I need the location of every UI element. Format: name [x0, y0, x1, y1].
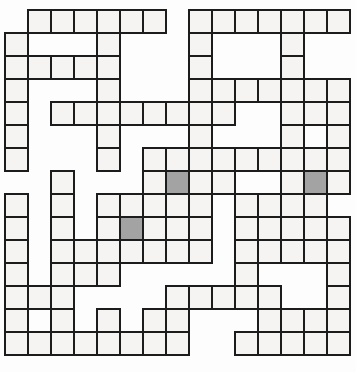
grid-cell[interactable] — [4, 308, 29, 333]
grid-cell[interactable] — [326, 124, 351, 149]
grid-cell[interactable] — [50, 193, 75, 218]
grid-cell[interactable] — [96, 101, 121, 126]
grid-cell[interactable] — [165, 147, 190, 172]
grid-cell[interactable] — [27, 9, 52, 34]
grid-cell[interactable] — [326, 216, 351, 241]
grid-cell[interactable] — [211, 78, 236, 103]
grid-cell[interactable] — [142, 147, 167, 172]
grid-cell[interactable] — [27, 55, 52, 80]
grid-cell[interactable] — [73, 239, 98, 264]
grid-cell[interactable] — [188, 170, 213, 195]
grid-cell[interactable] — [96, 9, 121, 34]
grid-cell[interactable] — [280, 170, 305, 195]
grid-cell[interactable] — [4, 285, 29, 310]
grid-cell[interactable] — [165, 285, 190, 310]
grid-cell[interactable] — [188, 239, 213, 264]
grid-cell[interactable] — [234, 262, 259, 287]
grid-cell[interactable] — [142, 9, 167, 34]
grid-cell[interactable] — [280, 239, 305, 264]
grid-cell[interactable] — [188, 216, 213, 241]
grid-cell[interactable] — [326, 239, 351, 264]
grid-cell[interactable] — [142, 170, 167, 195]
grid-cell[interactable] — [280, 101, 305, 126]
grid-cell[interactable] — [211, 285, 236, 310]
grid-cell[interactable] — [280, 78, 305, 103]
grid-cell[interactable] — [73, 331, 98, 356]
grid-cell[interactable] — [142, 331, 167, 356]
grid-cell[interactable] — [142, 101, 167, 126]
grid-cell[interactable] — [165, 193, 190, 218]
grid-cell[interactable] — [4, 78, 29, 103]
grid-cell[interactable] — [234, 285, 259, 310]
grid-cell[interactable] — [142, 193, 167, 218]
grid-cell[interactable] — [280, 193, 305, 218]
grid-cell[interactable] — [50, 262, 75, 287]
grid-cell[interactable] — [50, 216, 75, 241]
grid-cell[interactable] — [142, 216, 167, 241]
grid-cell[interactable] — [280, 147, 305, 172]
grid-cell[interactable] — [96, 216, 121, 241]
shaded-cell[interactable] — [165, 170, 190, 195]
grid-cell[interactable] — [96, 331, 121, 356]
grid-cell[interactable] — [280, 32, 305, 57]
grid-cell[interactable] — [234, 216, 259, 241]
grid-cell[interactable] — [119, 101, 144, 126]
grid-cell[interactable] — [165, 239, 190, 264]
grid-cell[interactable] — [188, 193, 213, 218]
grid-cell[interactable] — [303, 331, 328, 356]
grid-cell[interactable] — [188, 124, 213, 149]
grid-cell[interactable] — [188, 9, 213, 34]
grid-cell[interactable] — [234, 239, 259, 264]
grid-cell[interactable] — [211, 147, 236, 172]
grid-cell[interactable] — [326, 262, 351, 287]
grid-cell[interactable] — [303, 9, 328, 34]
grid-cell[interactable] — [188, 285, 213, 310]
grid-cell[interactable] — [257, 308, 282, 333]
grid-cell[interactable] — [96, 239, 121, 264]
grid-cell[interactable] — [165, 101, 190, 126]
grid-cell[interactable] — [280, 308, 305, 333]
grid-cell[interactable] — [257, 239, 282, 264]
grid-cell[interactable] — [50, 101, 75, 126]
shaded-cell[interactable] — [119, 216, 144, 241]
grid-cell[interactable] — [73, 262, 98, 287]
grid-cell[interactable] — [4, 101, 29, 126]
grid-cell[interactable] — [234, 147, 259, 172]
grid-cell[interactable] — [188, 101, 213, 126]
grid-cell[interactable] — [4, 124, 29, 149]
grid-cell[interactable] — [4, 193, 29, 218]
grid-cell[interactable] — [27, 285, 52, 310]
grid-cell[interactable] — [96, 55, 121, 80]
grid-cell[interactable] — [326, 170, 351, 195]
grid-cell[interactable] — [50, 308, 75, 333]
grid-cell[interactable] — [257, 9, 282, 34]
grid-cell[interactable] — [4, 239, 29, 264]
grid-cell[interactable] — [50, 55, 75, 80]
grid-cell[interactable] — [326, 78, 351, 103]
grid-cell[interactable] — [280, 216, 305, 241]
grid-cell[interactable] — [96, 147, 121, 172]
grid-cell[interactable] — [96, 262, 121, 287]
grid-cell[interactable] — [303, 101, 328, 126]
grid-cell[interactable] — [119, 331, 144, 356]
grid-cell[interactable] — [50, 331, 75, 356]
grid-cell[interactable] — [326, 285, 351, 310]
grid-cell[interactable] — [27, 331, 52, 356]
grid-cell[interactable] — [234, 193, 259, 218]
grid-cell[interactable] — [165, 331, 190, 356]
grid-cell[interactable] — [50, 9, 75, 34]
grid-cell[interactable] — [257, 216, 282, 241]
grid-cell[interactable] — [280, 9, 305, 34]
grid-cell[interactable] — [257, 147, 282, 172]
grid-cell[interactable] — [4, 147, 29, 172]
grid-cell[interactable] — [188, 55, 213, 80]
grid-cell[interactable] — [142, 308, 167, 333]
grid-cell[interactable] — [73, 55, 98, 80]
grid-cell[interactable] — [119, 9, 144, 34]
grid-cell[interactable] — [326, 308, 351, 333]
grid-cell[interactable] — [119, 193, 144, 218]
grid-cell[interactable] — [303, 239, 328, 264]
grid-cell[interactable] — [234, 331, 259, 356]
grid-cell[interactable] — [165, 216, 190, 241]
grid-cell[interactable] — [234, 78, 259, 103]
